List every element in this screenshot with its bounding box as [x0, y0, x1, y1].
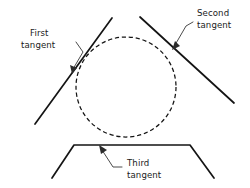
first-tangent-leader — [70, 42, 83, 74]
first-tangent-label-line2: tangent — [21, 40, 56, 50]
dashed-circle — [76, 37, 176, 137]
third-tangent-leader — [99, 145, 122, 167]
second-tangent-leader — [172, 22, 193, 50]
first-tangent-label-line1: First — [30, 28, 49, 38]
tangent-lines-figure: First tangent Second tangent Third tange… — [0, 0, 250, 188]
figure-canvas: First tangent Second tangent Third tange… — [0, 0, 250, 188]
second-tangent-label-line2: tangent — [197, 20, 232, 30]
second-tangent-label-line1: Second — [197, 8, 229, 18]
third-tangent-label-line1: Third — [126, 158, 149, 168]
third-tangent-label-line2: tangent — [127, 170, 162, 180]
